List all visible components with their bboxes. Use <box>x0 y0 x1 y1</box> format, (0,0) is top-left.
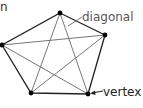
vertex-dot <box>103 33 108 38</box>
vertex-dot <box>29 91 34 96</box>
vertex-dot <box>86 92 91 97</box>
vertex-label: vertex <box>103 85 141 99</box>
diagonals <box>2 13 105 94</box>
diagonal-line <box>31 35 105 93</box>
title-fragment: n <box>0 0 8 14</box>
pentagon-diagram: n diagonal vertex <box>0 0 143 108</box>
arrow-head-icon <box>90 91 96 96</box>
diagonal-line <box>2 45 88 94</box>
diagonal-label: diagonal <box>82 10 134 24</box>
vertex-dot <box>58 11 63 16</box>
